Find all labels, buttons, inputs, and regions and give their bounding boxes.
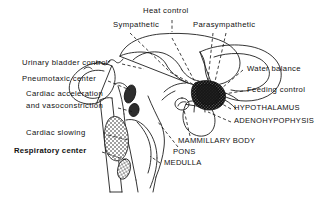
- brain-sagittal-illustration: [0, 0, 315, 198]
- label-pons: PONS: [173, 148, 196, 156]
- label-sympathetic: Sympathetic: [113, 21, 159, 29]
- label-mammillary-body: MAMMILLARY BODY: [178, 137, 255, 145]
- label-heat-control: Heat control: [143, 7, 189, 15]
- label-cardiac-slowing: Cardiac slowing: [26, 129, 86, 137]
- leader-mammillary-body: [184, 110, 190, 136]
- label-hypothalamus: HYPOTHALAMUS: [234, 104, 300, 112]
- label-pneumotaxic-center: Pneumotaxic center: [22, 75, 96, 83]
- leader-adenohypophysis: [208, 112, 231, 122]
- label-medulla: MEDULLA: [164, 159, 202, 167]
- label-respiratory-center: Respiratory center: [14, 147, 86, 155]
- label-water-balance: Water balance: [247, 65, 301, 73]
- leader-medulla: [150, 156, 160, 163]
- brain-autonomic-centers-figure: Heat control Sympathetic Parasympathetic…: [0, 0, 315, 198]
- leader-water-balance: [222, 70, 243, 88]
- label-parasympathetic: Parasympathetic: [193, 21, 256, 29]
- label-feeding-control: Feeding control: [247, 86, 305, 94]
- label-cardiac-acceleration: Cardiac acceleration: [26, 90, 103, 98]
- label-and-vasoconstriction: and vasoconstriction: [26, 102, 103, 110]
- label-urinary-bladder-control: Urinary bladder control: [22, 59, 108, 67]
- leader-parasympathetic: [208, 33, 213, 80]
- leader-sympathetic: [130, 33, 200, 88]
- leader-parasympathetic-2: [214, 33, 226, 86]
- label-adenohypophysis: ADENOHYPOPHYSIS: [234, 117, 314, 125]
- leader-urinary-bladder-control: [122, 64, 144, 69]
- leader-pons: [158, 122, 178, 147]
